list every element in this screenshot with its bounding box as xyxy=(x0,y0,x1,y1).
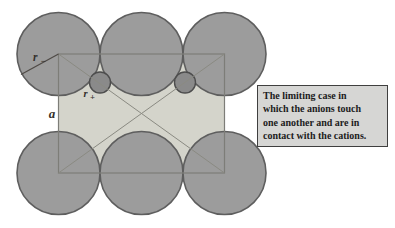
callout-line: which the anions touch xyxy=(263,102,384,115)
cation-sphere-left xyxy=(90,72,111,93)
anion-radius-label: r xyxy=(33,51,38,63)
callout-line: contact with the cations. xyxy=(263,129,384,142)
callout-line: The limiting case in xyxy=(263,89,384,102)
cation-radius-subscript: + xyxy=(90,92,95,102)
callout-box: The limiting case in which the anions to… xyxy=(257,85,388,147)
anion-radius-subscript: − xyxy=(41,56,46,66)
cell-edge-label: a xyxy=(49,106,56,121)
figure-canvas: r − r + a The limiting case in which the… xyxy=(0,0,395,228)
callout-line: one another and are in xyxy=(263,116,384,129)
